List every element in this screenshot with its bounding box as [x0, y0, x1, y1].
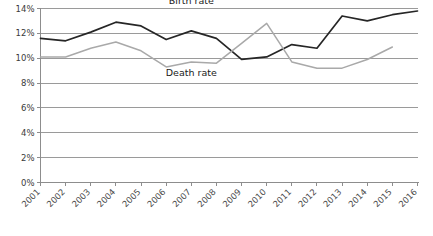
- series-line-birth-rate: [41, 11, 418, 59]
- x-tick-label: 2014: [346, 187, 368, 209]
- x-tick-label: 2001: [20, 187, 42, 209]
- x-tick-label: 2009: [221, 187, 243, 209]
- y-tick-label: 14%: [16, 4, 35, 14]
- x-tick-label: 2007: [170, 187, 192, 209]
- x-tick-label: 2004: [95, 187, 117, 209]
- x-tick-label: 2015: [371, 187, 393, 209]
- x-tick-label: 2016: [397, 187, 419, 209]
- x-tick-label: 2005: [120, 187, 142, 209]
- y-axis-tick-labels: 0%2%4%6%8%10%12%14%: [16, 4, 41, 188]
- x-tick-label: 2002: [45, 187, 67, 209]
- x-axis-tick-labels: 2001200220032004200520062007200820092010…: [20, 187, 419, 209]
- axes: [41, 8, 419, 183]
- y-tick-label: 4%: [21, 128, 35, 138]
- x-tick-label: 2003: [70, 187, 92, 209]
- chart-container: 0%2%4%6%8%10%12%14% 20012002200320042005…: [0, 0, 433, 236]
- y-tick-label: 10%: [16, 53, 35, 63]
- y-tick-label: 2%: [21, 153, 35, 163]
- x-tick-label: 2013: [321, 187, 343, 209]
- x-tick-label: 2011: [271, 187, 293, 209]
- x-tick-label: 2006: [145, 187, 167, 209]
- x-tick-label: 2008: [195, 187, 217, 209]
- y-tick-label: 12%: [16, 28, 35, 38]
- x-tick-label: 2010: [246, 187, 268, 209]
- y-tick-label: 6%: [21, 103, 35, 113]
- series-label-birth-rate: Birth rate: [169, 0, 214, 6]
- series-annotations: Birth rateDeath rate: [166, 0, 217, 78]
- y-tick-label: 8%: [21, 78, 35, 88]
- y-tick-label: 0%: [21, 178, 35, 188]
- data-series: [41, 11, 418, 68]
- series-label-death-rate: Death rate: [166, 67, 217, 78]
- x-tick-label: 2012: [296, 187, 318, 209]
- series-line-death-rate: [41, 23, 393, 68]
- line-chart: 0%2%4%6%8%10%12%14% 20012002200320042005…: [0, 0, 433, 236]
- gridlines: [41, 9, 418, 158]
